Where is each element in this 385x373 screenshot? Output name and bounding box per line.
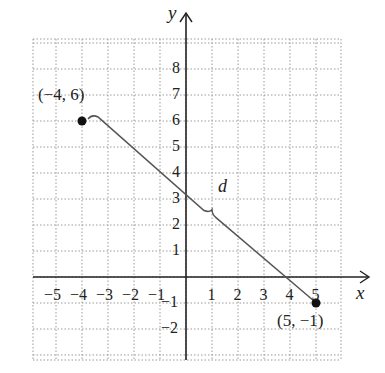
y-tick-label: 7: [172, 86, 180, 102]
graph-canvas: [0, 0, 385, 373]
y-tick-label: −1: [161, 294, 178, 310]
point-label-b: (5, −1): [277, 312, 323, 329]
x-tick-label: 2: [234, 287, 242, 303]
x-tick-label: 4: [286, 287, 294, 303]
axes: [33, 13, 369, 360]
point-label-a: (−4, 6): [38, 86, 84, 103]
x-tick-label: −5: [44, 287, 61, 303]
y-tick-label: 3: [172, 190, 180, 206]
points: [78, 117, 321, 308]
x-tick-label: −4: [70, 287, 87, 303]
point-dot-0: [78, 117, 87, 126]
coordinate-plane: y x d (−4, 6) (5, −1) −5−4−3−2−112345 87…: [0, 0, 385, 373]
x-tick-label: 3: [260, 287, 268, 303]
x-tick-label: −2: [122, 287, 139, 303]
y-tick-label: 6: [172, 112, 180, 128]
x-axis-label: x: [356, 283, 364, 302]
x-tick-label: 1: [208, 287, 216, 303]
x-tick-label: −3: [96, 287, 113, 303]
distance-brace: [88, 116, 314, 301]
segment-d: [88, 116, 314, 301]
y-tick-label: −2: [161, 320, 178, 336]
y-tick-label: 4: [172, 164, 180, 180]
y-tick-label: 5: [172, 138, 180, 154]
y-tick-label: 1: [172, 242, 180, 258]
x-tick-label: 5: [312, 287, 320, 303]
y-tick-label: 2: [172, 216, 180, 232]
y-tick-label: 8: [172, 60, 180, 76]
y-axis-label: y: [168, 3, 176, 22]
segment-label-d: d: [218, 177, 227, 195]
